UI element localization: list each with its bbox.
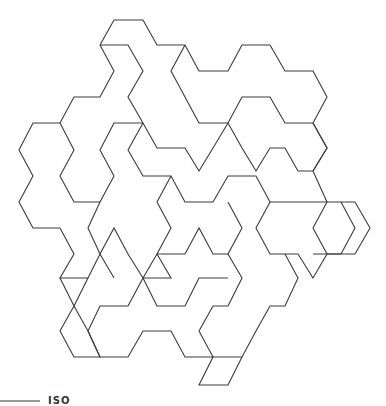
tile-outline <box>128 123 298 202</box>
figure-caption: ISO <box>0 396 70 406</box>
tile-outline <box>256 171 327 278</box>
tile-outline <box>298 202 355 254</box>
tile-outline <box>327 202 370 254</box>
tile-outline <box>100 45 327 171</box>
caption-bar <box>0 400 40 402</box>
tile-outline <box>313 123 327 171</box>
tile-outline <box>19 45 143 278</box>
tile-outline <box>60 123 100 202</box>
caption-text: ISO <box>48 395 70 406</box>
tile-outline <box>74 278 242 385</box>
tile-outline <box>199 202 298 357</box>
tile-outline <box>100 176 171 278</box>
tile-outline <box>143 228 228 278</box>
